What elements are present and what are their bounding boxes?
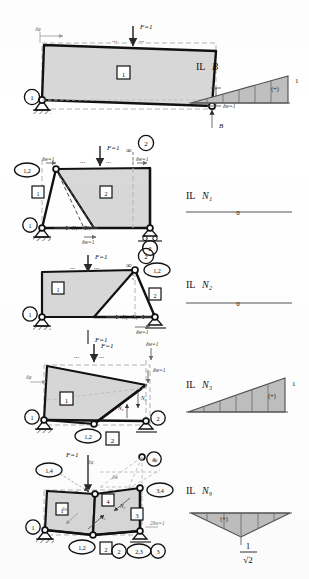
force-label-N1-b: N₁ bbox=[84, 225, 91, 231]
disc-5-body-1 bbox=[45, 491, 95, 535]
il-symbol-2: N₁ bbox=[201, 190, 212, 201]
force-label-N9-a: N₉ bbox=[119, 503, 126, 509]
engineering-figure: .body { fill:#d8d8d8; stroke:#111; strok… bbox=[0, 0, 309, 579]
delta-phi-label-4: δφ bbox=[26, 374, 31, 380]
delta-phi-annotation: δφ bbox=[35, 26, 63, 43]
delta-phi-annotation-4: δφ bbox=[26, 374, 46, 382]
joint-marker-label-2d: 1,2 bbox=[23, 167, 31, 174]
delta-w-label-2a: δw=1 bbox=[42, 156, 55, 162]
force-label-N2-a: N₂ bbox=[121, 314, 128, 320]
force-label-N2-b: N₂ bbox=[131, 314, 138, 320]
load-label-F-5: F=1 bbox=[65, 451, 79, 459]
il-symbol-1: B bbox=[212, 61, 218, 72]
travel-ellipsis-right-3: ... bbox=[94, 263, 100, 271]
il-sign-5: (+) bbox=[220, 516, 227, 523]
hinge-joint-2-top bbox=[53, 166, 59, 172]
hinge-joint-5-left bbox=[42, 527, 48, 533]
travel-ellipsis-left-2: ... bbox=[80, 157, 86, 165]
hinge-joint-5-mid bbox=[90, 532, 96, 538]
il-prefix-5: IL bbox=[186, 485, 195, 496]
delta-w-annotation-3: δw=1 bbox=[135, 327, 150, 335]
disc-label-3b: 2 bbox=[153, 292, 156, 299]
joint-marker-label-5h: 3 bbox=[156, 548, 159, 555]
joint-marker-label-4a: 1 bbox=[30, 414, 33, 421]
disc-label-2a: 1 bbox=[36, 190, 39, 197]
panel-5-mechanism: 4 δφ δφ δw F=1 ... ... 1 4 2 bbox=[26, 451, 173, 558]
delta-w-label-5a: δw bbox=[112, 474, 118, 480]
hinge-joint-5-right bbox=[137, 528, 143, 534]
il-sign-4: (+) bbox=[268, 393, 275, 400]
delta-w-label-3: δw=1 bbox=[136, 329, 149, 335]
hinge-joint-5-upper-right bbox=[137, 485, 143, 491]
travel-ellipsis-right: ... bbox=[139, 36, 145, 44]
delta-w-label-5b: δw bbox=[62, 506, 68, 512]
disc-label-2b: 2 bbox=[104, 190, 107, 197]
hinge-joint-4-left bbox=[41, 417, 47, 423]
panel-2-influence-line: IL N₁ 0 bbox=[186, 190, 292, 217]
delta-w-label-4b: δw=1 bbox=[153, 367, 166, 373]
disc-label-5b: 4 bbox=[106, 498, 109, 505]
joint-marker-label-3b: 1 bbox=[28, 311, 31, 318]
disc-label-4b: 2 bbox=[111, 437, 115, 445]
hinge-joint-3-left bbox=[39, 314, 45, 320]
il-prefix-2: IL bbox=[186, 190, 195, 201]
load-label-F-4: F=1 bbox=[100, 342, 114, 350]
joint-marker-label-2a: 2 bbox=[144, 140, 148, 148]
force-label-N1-a: N₁ bbox=[71, 225, 78, 231]
il-ordinate-2: 0 bbox=[236, 209, 240, 217]
delta-w-label-2b: δw=1 bbox=[136, 156, 149, 162]
hinge-joint-2-left bbox=[39, 225, 45, 231]
il-prefix-1: IL bbox=[196, 61, 205, 72]
il-ordinate-1: 1 bbox=[295, 77, 299, 85]
joint-marker-label-3a: 2 bbox=[144, 253, 148, 261]
joint-marker-label-5b: 1,4 bbox=[45, 467, 53, 474]
joint-marker-label-5e: 3,4 bbox=[156, 487, 164, 494]
panel-3-influence-line: IL N₂ 0 bbox=[186, 279, 292, 308]
hinge-joint-5-upper-mid bbox=[92, 491, 98, 497]
panel-4-mechanism: 1 2 1 1,2 2 F=1 ... ... δφ δw=1 bbox=[25, 341, 166, 445]
load-label-F-2: F=1 bbox=[106, 144, 120, 152]
joint-marker-label-5c: 1 bbox=[31, 524, 34, 531]
il-ordinate-4: 1 bbox=[292, 380, 296, 388]
travel-ellipsis-left-4: ... bbox=[74, 352, 80, 360]
travel-ellipsis-left: ... bbox=[112, 36, 118, 44]
load-label-F: F=1 bbox=[139, 23, 153, 31]
infinity-symbol-2: ∞ bbox=[126, 146, 132, 155]
disc-label-5c: 2 bbox=[104, 546, 107, 553]
joint-marker-label-3c: 1,2 bbox=[153, 267, 161, 274]
delta-phi-label: δφ bbox=[35, 26, 40, 32]
panel-5-influence-line: IL N₉ (+) 1 √2 bbox=[186, 485, 292, 565]
hinge-joint-4-right bbox=[143, 418, 149, 424]
il-prefix-3: IL bbox=[186, 279, 195, 290]
force-label-N3-b: N₃ bbox=[117, 405, 124, 411]
hinge-joint-4-mid bbox=[91, 421, 97, 427]
disc-label-4a: 1 bbox=[65, 397, 69, 405]
delta-w-annotation-4a: δw=1 bbox=[146, 341, 159, 360]
force-label-N3-a: N₃ bbox=[140, 395, 147, 401]
delta-w-annotation-2b: δw=1 bbox=[136, 156, 149, 163]
joint-marker-label-1: 1 bbox=[30, 94, 34, 102]
il-symbol-4: N₃ bbox=[201, 379, 213, 390]
infinity-symbol-3: ∞ bbox=[126, 261, 132, 270]
panel-1-mechanism: 1 1 B F=1 ... ... δφ δw=1 bbox=[24, 23, 235, 130]
joint-marker-label-5d: 1,2 bbox=[78, 544, 86, 551]
two-delta-w-label: 2δw=1 bbox=[150, 520, 165, 526]
hinge-joint-2-right bbox=[147, 225, 153, 231]
il-area-5 bbox=[191, 513, 290, 537]
disc-label-5d: 3 bbox=[135, 512, 138, 519]
panel-4-influence-line: IL N₃ (+) 1 bbox=[186, 378, 296, 412]
delta-w-annotation-2c: δw=1 bbox=[82, 237, 96, 245]
joint-marker-label-5g: 2,3 bbox=[135, 548, 143, 555]
force-label-N9-b: N₉ bbox=[99, 514, 106, 520]
panel-3-mechanism: 2 ∞ 1 2 1 1,2 F=1 ... ... N₂ bbox=[23, 248, 170, 344]
travel-ellipsis-right-2: ... bbox=[106, 157, 112, 165]
delta-phi-label-5b: δφ bbox=[152, 457, 157, 463]
load-label-F-3: F=1 bbox=[94, 253, 108, 261]
delta-w-label-4a: δw=1 bbox=[146, 341, 159, 347]
delta-w-annotation-2a: δw=1 bbox=[42, 156, 56, 163]
travel-ellipsis-left-3: ... bbox=[70, 263, 76, 271]
disc-label-1: 1 bbox=[122, 71, 126, 79]
delta-phi-label-5a: δφ bbox=[88, 459, 93, 465]
il-symbol-3: N₂ bbox=[201, 279, 213, 290]
delta-w-label-2c: δw=1 bbox=[82, 239, 95, 245]
